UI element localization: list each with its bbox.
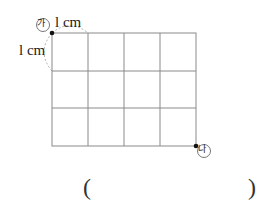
start-point-label: 가 bbox=[37, 19, 45, 28]
point-ga-dot bbox=[50, 31, 55, 36]
top-unit-label: l cm bbox=[55, 15, 81, 30]
answer-blank[interactable] bbox=[95, 172, 245, 200]
answer-open-paren: ( bbox=[83, 175, 91, 199]
answer-close-paren: ) bbox=[248, 175, 256, 199]
end-point-label: 나 bbox=[198, 145, 206, 154]
side-unit-label: l cm bbox=[19, 43, 45, 58]
grid-lines bbox=[52, 33, 196, 146]
